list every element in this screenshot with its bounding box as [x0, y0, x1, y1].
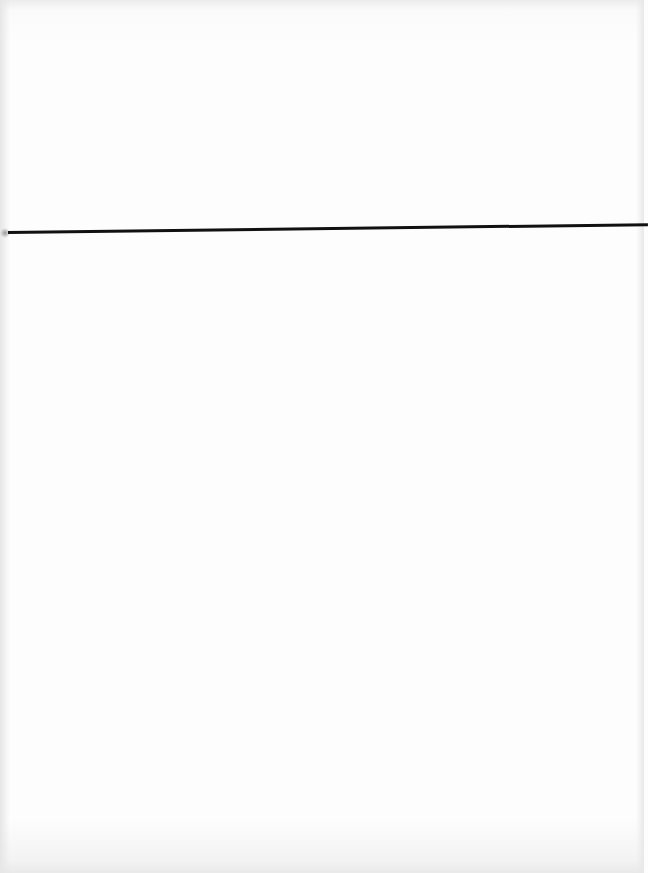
page-left-edge-shadow	[0, 0, 10, 873]
show-through-text	[200, 145, 400, 155]
page-right-edge-shadow	[636, 0, 644, 873]
show-through-text	[200, 125, 440, 135]
horizontal-rule	[8, 223, 648, 234]
show-through-text	[200, 160, 420, 170]
